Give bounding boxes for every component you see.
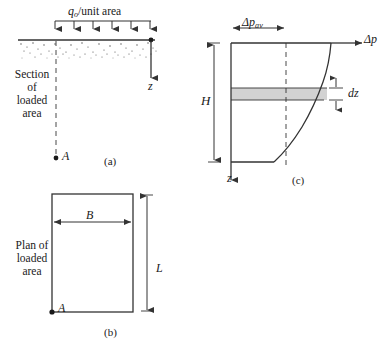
section-text-line-1: of (6, 81, 58, 94)
delta-p-axis-label: Δp (364, 33, 377, 46)
section-of-loaded-area-text: Section of loaded area (6, 68, 58, 120)
plan-text-line-2: area (6, 265, 58, 278)
section-text-line-3: area (6, 107, 58, 120)
panel-a-caption: (a) (104, 155, 116, 167)
plan-of-loaded-area-text: Plan of loaded area (6, 239, 58, 278)
dz-shaded-element (231, 88, 327, 100)
load-unit-text: /unit area (78, 5, 121, 17)
delta-p-av-subscript: av (255, 21, 263, 30)
point-a-label-plan: A (58, 302, 65, 315)
load-arrow-group (55, 21, 151, 29)
plan-text-line-0: Plan of (6, 239, 58, 252)
point-a-marker-plan (49, 309, 54, 314)
load-intensity-label: qo/unit area (68, 5, 121, 19)
b-dimension-label: B (86, 209, 93, 222)
delta-p-av-symbol: Δp (242, 15, 255, 29)
panel-b-caption: (b) (104, 326, 117, 338)
z-axis-label-section: z (148, 80, 153, 93)
l-dimension-label: L (156, 262, 163, 275)
soil-stipple-band (20, 42, 156, 58)
dz-label: dz (348, 87, 359, 100)
h-dimension-label: H (201, 94, 210, 109)
panel-c-caption: (c) (292, 174, 304, 186)
delta-p-av-label: Δpav (242, 16, 263, 30)
point-a-marker-section (54, 156, 59, 161)
geotechnical-figure: qo/unit area Section of loaded area z A … (0, 0, 386, 345)
z-axis-label-panel-c: z (227, 172, 232, 185)
section-text-line-2: loaded (6, 94, 58, 107)
point-a-label-section: A (62, 150, 69, 163)
plan-text-line-1: loaded (6, 252, 58, 265)
section-text-line-0: Section (6, 68, 58, 81)
stress-distribution-curve (274, 43, 331, 162)
